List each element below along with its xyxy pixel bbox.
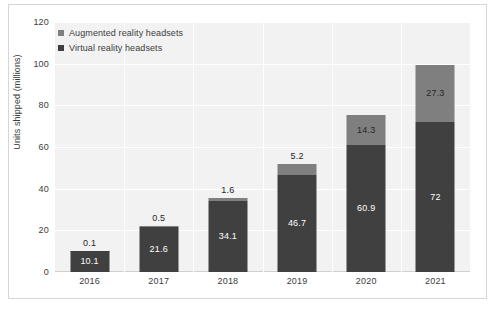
legend-swatch-icon: [58, 30, 64, 36]
bar-value-label: 27.3: [426, 89, 444, 98]
bar-group: 27.372: [401, 22, 470, 272]
bar-segment[interactable]: 10.1: [70, 251, 109, 272]
bar-stack[interactable]: 27.372: [416, 65, 455, 272]
bar-group: 5.246.7: [263, 22, 332, 272]
bar-value-label: 14.3: [357, 126, 375, 135]
bars-layer: 0.110.10.521.61.634.15.246.714.360.927.3…: [55, 22, 470, 272]
bar-group: 0.521.6: [124, 22, 193, 272]
bar-stack[interactable]: 14.360.9: [347, 115, 386, 272]
bar-segment[interactable]: 21.6: [139, 227, 178, 272]
bar-value-label: 10.1: [80, 257, 98, 266]
x-axis-tick-label: 2017: [148, 276, 169, 286]
x-axis-tick-label: 2021: [425, 276, 446, 286]
y-axis-tick-label: 20: [5, 225, 49, 235]
y-axis-tick-label: 80: [5, 100, 49, 110]
bar-value-label: 5.2: [291, 152, 304, 161]
bar-value-label: 72: [430, 193, 440, 202]
legend-item-label: Virtual reality headsets: [69, 43, 162, 53]
y-axis-tick-label: 120: [5, 17, 49, 27]
legend-item[interactable]: Augmented reality headsets: [58, 28, 183, 38]
x-axis-tick-label: 2018: [217, 276, 238, 286]
bar-value-label: 21.6: [150, 245, 168, 254]
legend-swatch-icon: [58, 45, 64, 51]
chart-container: Units shipped (millions) 020406080100120…: [0, 0, 495, 310]
bar-value-label: 34.1: [219, 232, 237, 241]
y-axis-tick-labels: 020406080100120: [0, 22, 49, 272]
legend-item[interactable]: Virtual reality headsets: [58, 43, 183, 53]
bar-value-label: 1.6: [221, 186, 234, 195]
y-axis-tick-label: 60: [5, 142, 49, 152]
bar-value-label: 46.7: [288, 219, 306, 228]
y-axis-tick-label: 40: [5, 184, 49, 194]
bar-group: 0.110.1: [55, 22, 124, 272]
bar-segment[interactable]: 46.7: [278, 175, 317, 272]
y-axis-tick-label: 0: [5, 267, 49, 277]
y-axis-tick-label: 100: [5, 59, 49, 69]
legend-item-label: Augmented reality headsets: [69, 28, 183, 38]
chart-legend: Augmented reality headsetsVirtual realit…: [58, 28, 183, 58]
bar-segment[interactable]: 72: [416, 122, 455, 272]
x-axis-tick-label: 2016: [79, 276, 100, 286]
bar-value-label: 60.9: [357, 204, 375, 213]
bar-segment[interactable]: 14.3: [347, 115, 386, 145]
x-axis-tick-labels: 201620172018201920202021: [55, 276, 470, 292]
bar-segment[interactable]: 5.2: [278, 164, 317, 175]
bar-group: 1.634.1: [193, 22, 262, 272]
x-axis-tick-label: 2019: [287, 276, 308, 286]
x-axis-tick-label: 2020: [356, 276, 377, 286]
bar-stack[interactable]: 0.110.1: [70, 251, 109, 272]
bar-stack[interactable]: 5.246.7: [278, 164, 317, 272]
bar-value-label: 0.1: [83, 239, 96, 248]
bar-segment[interactable]: 27.3: [416, 65, 455, 122]
bar-segment[interactable]: 34.1: [208, 201, 247, 272]
bar-stack[interactable]: 0.521.6: [139, 226, 178, 272]
bar-value-label: 0.5: [152, 214, 165, 223]
bar-group: 14.360.9: [332, 22, 401, 272]
bar-stack[interactable]: 1.634.1: [208, 198, 247, 272]
bar-segment[interactable]: 60.9: [347, 145, 386, 272]
